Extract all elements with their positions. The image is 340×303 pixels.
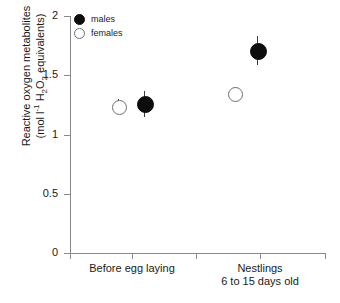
- x-axis-label-nestlings: Nestlings 6 to 15 days old: [190, 262, 330, 288]
- open-circle-icon: [74, 28, 85, 39]
- x-axis-label-before-egg-laying: Before egg laying: [62, 262, 202, 275]
- y-tick-label-group-0: 0: [0, 247, 70, 258]
- x-tick-3: [260, 253, 261, 259]
- x-tick-4: [325, 253, 326, 259]
- datapoint-males-3: [247, 34, 267, 66]
- y-tick-label-0.5: 0.5: [32, 188, 58, 199]
- x-label-1-line2: 6 to 15 days old: [190, 275, 330, 288]
- filled-circle-icon: [74, 14, 85, 25]
- datapoint-males-1: [134, 89, 154, 119]
- marker-open-circle: [228, 87, 243, 102]
- y-axis-title-line1: Reactive oxygen metabolites: [19, 6, 33, 147]
- legend-item-males: males: [74, 14, 123, 25]
- legend-label-females: females: [91, 29, 123, 38]
- ylabel-superscript: -1: [32, 104, 41, 111]
- x-label-0-line1: Before egg laying: [62, 262, 202, 275]
- y-axis-title-line2: (mol l-1 H2O2 equivalents): [33, 14, 47, 139]
- x-label-1-line1: Nestlings: [190, 262, 330, 275]
- ylabel-units-mid2: O: [34, 80, 46, 89]
- x-tick-2: [196, 253, 197, 259]
- legend-label-males: males: [91, 15, 115, 24]
- ylabel-subscript-2: 2: [40, 76, 49, 80]
- datapoint-females-0: [108, 97, 128, 115]
- datapoint-females-2: [224, 85, 244, 101]
- y-tick-label-group-0.5: 0.5: [0, 188, 70, 199]
- y-axis-line: [70, 16, 71, 254]
- ylabel-units-suffix: equivalents): [34, 14, 46, 76]
- marker-filled-circle: [250, 43, 267, 60]
- y-tick-label-0: 0: [32, 247, 58, 258]
- ylabel-units-prefix: (mol l: [34, 112, 46, 139]
- legend-item-females: females: [74, 28, 123, 39]
- x-tick-0: [70, 253, 71, 259]
- marker-open-circle: [112, 100, 127, 115]
- chart-legend: males females: [74, 14, 123, 42]
- x-tick-1: [132, 253, 133, 259]
- marker-filled-circle: [137, 96, 154, 113]
- ylabel-units-mid: H: [34, 93, 46, 104]
- chart-figure: 00.511.52 Reactive oxygen metabolites (m…: [0, 0, 340, 303]
- x-axis-line: [70, 253, 325, 254]
- ylabel-subscript-1: 2: [40, 89, 49, 93]
- y-axis-title: Reactive oxygen metabolites (mol l-1 H2O…: [17, 0, 49, 181]
